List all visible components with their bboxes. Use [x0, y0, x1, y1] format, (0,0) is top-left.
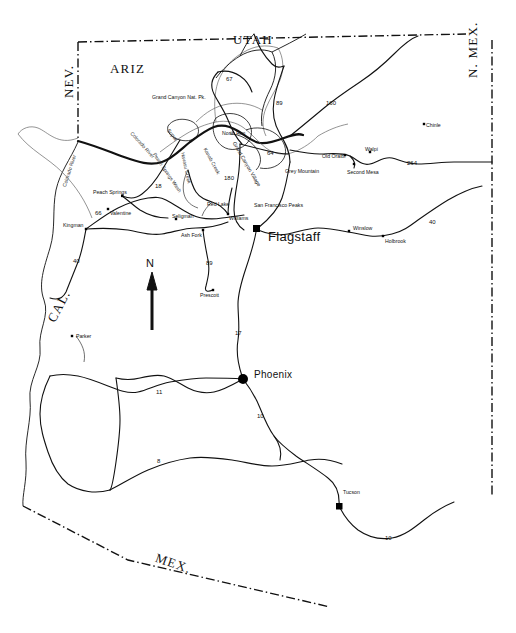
city-label-ash-fork[interactable]: Ash Fork — [181, 233, 202, 238]
hwy-264 — [290, 150, 492, 164]
state-label-utah: UTAH — [233, 33, 273, 46]
city-label-holbrook[interactable]: Holbrook — [385, 239, 406, 244]
city-label-chinle[interactable]: Chinle — [426, 123, 441, 128]
marker-phoenix — [238, 374, 248, 384]
route-marker-route-18[interactable]: 18 — [155, 183, 162, 189]
route-marker-route-180[interactable]: 180 — [224, 175, 234, 181]
marker-tucson — [336, 503, 343, 510]
city-label-parker[interactable]: Parker — [76, 334, 91, 339]
hwy-89-north — [273, 66, 290, 162]
border-west-california — [23, 142, 78, 506]
city-label-valentine[interactable]: Valentine — [110, 211, 131, 216]
route-marker-route-8[interactable]: 8 — [157, 458, 160, 464]
feature-label-north-rim: North Rim — [222, 131, 245, 136]
city-markers — [71, 123, 425, 510]
route-marker-route-89n[interactable]: 89 — [276, 100, 283, 106]
hwy-10-east — [339, 502, 454, 539]
route-marker-route-67[interactable]: 67 — [226, 76, 233, 82]
hwy-64 — [240, 144, 288, 154]
city-label-williams[interactable]: Williams — [229, 216, 248, 221]
route-marker-route-89s[interactable]: 89 — [206, 260, 213, 266]
route-marker-route-40e[interactable]: 40 — [429, 219, 436, 225]
compass-arrow — [147, 272, 157, 330]
hwy-10-tucson — [243, 379, 339, 506]
river-lower-inner — [110, 378, 120, 490]
route-marker-route-10s[interactable]: 10 — [257, 413, 264, 419]
city-label-tucson[interactable]: Tucson — [343, 490, 360, 495]
city-label-second-mesa[interactable]: Second Mesa — [347, 170, 379, 175]
highways — [40, 34, 492, 539]
river-lower-west — [40, 376, 110, 492]
route-marker-route-17[interactable]: 17 — [235, 330, 242, 336]
city-label-kingman[interactable]: Kingman — [63, 223, 83, 228]
city-label-walpi[interactable]: Walpi — [365, 147, 378, 152]
route-marker-route-11[interactable]: 11 — [156, 389, 162, 395]
city-label-old-oraibi[interactable]: Old Oraibi — [322, 154, 345, 159]
state-label-nmex: N. MEX. — [466, 22, 479, 78]
state-label-nev: NEV. — [62, 65, 75, 98]
route-marker-route-264[interactable]: 264 — [407, 160, 417, 166]
compass-north-label: N — [146, 258, 154, 269]
marker-flagstaff — [253, 225, 260, 232]
feature-label-grand-canyon-np: Grand Canyon Nat. Pk. — [152, 95, 206, 100]
hwy-66-alt — [86, 222, 228, 235]
city-label-prescott[interactable]: Prescott — [200, 293, 219, 298]
state-label-ariz: ARIZ — [110, 62, 145, 75]
city-label-phoenix[interactable]: Phoenix — [254, 370, 292, 380]
route-marker-route-160[interactable]: 160 — [326, 100, 336, 106]
feature-label-san-francisco-peaks: San Francisco Peaks — [254, 203, 303, 208]
feature-label-grey-mountain: Grey Mountain — [285, 169, 319, 174]
map-graphics — [0, 0, 516, 633]
city-label-flagstaff[interactable]: Flagstaff — [268, 230, 320, 243]
route-marker-route-10e[interactable]: 10 — [385, 535, 392, 541]
hwy-160 — [290, 36, 418, 136]
map-canvas: UTAHARIZNEV.CAL.N. MEX.MEX.Grand Canyon … — [0, 0, 516, 633]
city-label-winslow[interactable]: Winslow — [353, 226, 372, 231]
route-marker-route-66[interactable]: 66 — [95, 210, 102, 216]
city-label-red-lake[interactable]: Red Lake — [207, 202, 229, 207]
hwy-17 — [237, 232, 256, 376]
hwy-11 — [50, 375, 243, 393]
city-label-peach-springs[interactable]: Peach Springs — [93, 190, 127, 195]
route-marker-route-64[interactable]: 64 — [267, 150, 274, 156]
route-marker-route-40w[interactable]: 40 — [73, 258, 80, 264]
hwy-8 — [110, 457, 342, 490]
hwy-40-west — [50, 229, 86, 299]
hwy-67-b — [218, 71, 252, 92]
city-label-seligman[interactable]: Seligman — [172, 214, 194, 219]
hwy-red-lake — [188, 170, 228, 214]
state-border-lines — [23, 34, 492, 607]
